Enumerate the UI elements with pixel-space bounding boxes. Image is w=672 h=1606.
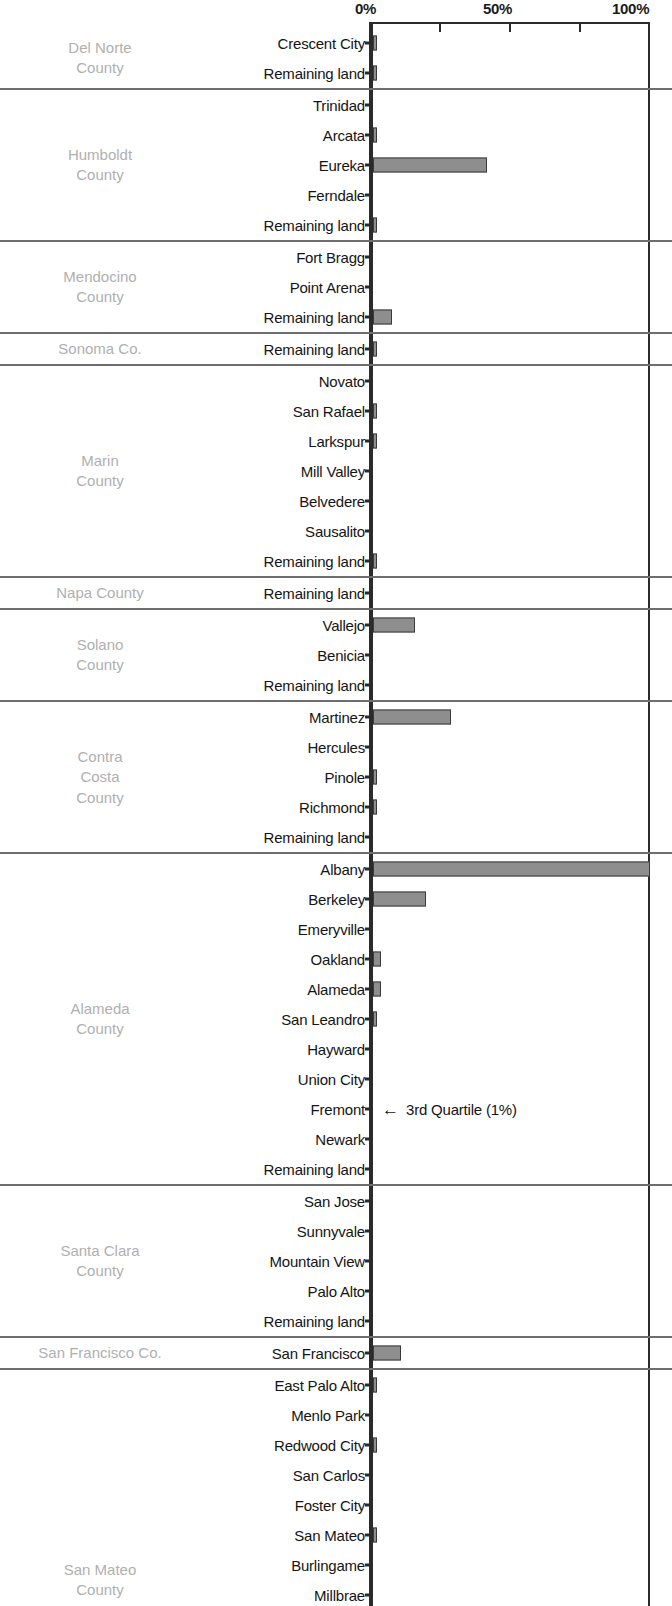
y-axis-tick xyxy=(365,684,370,687)
county-band: San Francisco Co.San Francisco xyxy=(0,1338,672,1370)
y-axis-tick xyxy=(365,256,370,259)
city-label: Mountain View xyxy=(269,1253,365,1270)
chart-row: Arcata xyxy=(0,120,672,150)
y-axis-tick xyxy=(365,316,370,319)
city-label: Richmond xyxy=(299,799,365,816)
county-band: Sonoma Co.Remaining land xyxy=(0,334,672,366)
y-axis-tick xyxy=(365,746,370,749)
city-label: Crescent City xyxy=(278,35,365,52)
city-label: Oakland xyxy=(311,951,365,968)
city-label: Remaining land xyxy=(264,309,365,326)
chart-row: Fort Bragg xyxy=(0,242,672,272)
bar-chart: 0% 50% 100% Del Norte CountyCrescent Cit… xyxy=(0,0,672,1606)
bar xyxy=(373,218,377,233)
bar xyxy=(373,1346,401,1361)
chart-row: Alameda xyxy=(0,974,672,1004)
bar xyxy=(373,1012,377,1027)
y-axis-tick xyxy=(365,1290,370,1293)
county-bands: Del Norte CountyCrescent CityRemaining l… xyxy=(0,28,672,1606)
city-label: San Rafael xyxy=(293,403,365,420)
chart-row: Hayward xyxy=(0,1034,672,1064)
bar xyxy=(373,66,377,81)
y-axis-tick xyxy=(365,440,370,443)
y-axis-tick xyxy=(365,1230,370,1233)
chart-row: Trinidad xyxy=(0,90,672,120)
axis-tick-label-0: 0% xyxy=(355,0,376,17)
chart-row: Point Arena xyxy=(0,272,672,302)
city-label: San Leandro xyxy=(281,1011,365,1028)
bar xyxy=(373,310,392,325)
chart-row: Remaining land xyxy=(0,1306,672,1336)
y-axis-tick xyxy=(365,348,370,351)
county-band: Mendocino CountyFort BraggPoint ArenaRem… xyxy=(0,242,672,334)
chart-row: Fremont←3rd Quartile (1%) xyxy=(0,1094,672,1124)
chart-row: Sausalito xyxy=(0,516,672,546)
city-label: Burlingame xyxy=(291,1557,365,1574)
chart-row: San Leandro xyxy=(0,1004,672,1034)
chart-row: Oakland xyxy=(0,944,672,974)
chart-row: Mill Valley xyxy=(0,456,672,486)
y-axis-tick xyxy=(365,104,370,107)
city-label: Benicia xyxy=(317,647,365,664)
y-axis-tick xyxy=(365,1108,370,1111)
chart-row: Sunnyvale xyxy=(0,1216,672,1246)
y-axis-tick xyxy=(365,1384,370,1387)
city-label: Trinidad xyxy=(313,97,365,114)
chart-row: Berkeley xyxy=(0,884,672,914)
chart-row: Larkspur xyxy=(0,426,672,456)
city-label: Mill Valley xyxy=(301,463,365,480)
city-label: East Palo Alto xyxy=(274,1377,365,1394)
county-band: Napa CountyRemaining land xyxy=(0,578,672,610)
county-band: Solano CountyVallejoBeniciaRemaining lan… xyxy=(0,610,672,702)
y-axis-tick xyxy=(365,868,370,871)
city-label: Vallejo xyxy=(322,617,365,634)
city-label: Emeryville xyxy=(298,921,365,938)
y-axis-tick xyxy=(365,1200,370,1203)
bar xyxy=(373,404,377,419)
y-axis-tick xyxy=(365,1504,370,1507)
bar xyxy=(373,800,377,815)
chart-row: Eureka xyxy=(0,150,672,180)
chart-row: Remaining land xyxy=(0,822,672,852)
chart-row: Pinole xyxy=(0,762,672,792)
y-axis-tick xyxy=(365,286,370,289)
chart-row: Emeryville xyxy=(0,914,672,944)
y-axis-tick xyxy=(365,806,370,809)
city-label: Pinole xyxy=(325,769,366,786)
bar xyxy=(373,1438,377,1453)
county-band: San Mateo CountyEast Palo AltoMenlo Park… xyxy=(0,1370,672,1606)
chart-row: Ferndale xyxy=(0,180,672,210)
chart-row: Belvedere xyxy=(0,486,672,516)
bar xyxy=(373,770,377,785)
chart-row: Remaining land xyxy=(0,58,672,88)
chart-row: Union City xyxy=(0,1064,672,1094)
y-axis-tick xyxy=(365,624,370,627)
chart-row: Benicia xyxy=(0,640,672,670)
y-axis-tick xyxy=(365,1594,370,1597)
y-axis-tick xyxy=(365,898,370,901)
city-label: Fremont xyxy=(311,1101,365,1118)
y-axis-tick xyxy=(365,1534,370,1537)
y-axis-tick xyxy=(365,1078,370,1081)
county-band: Del Norte CountyCrescent CityRemaining l… xyxy=(0,28,672,90)
bar xyxy=(373,1378,377,1393)
y-axis-tick xyxy=(365,1352,370,1355)
county-band: Santa Clara CountySan JoseSunnyvaleMount… xyxy=(0,1186,672,1338)
arrow-left-icon: ← xyxy=(382,1101,399,1118)
y-axis-tick xyxy=(365,134,370,137)
city-label: Remaining land xyxy=(264,1161,365,1178)
chart-row: San Mateo xyxy=(0,1520,672,1550)
county-band: Marin CountyNovatoSan RafaelLarkspurMill… xyxy=(0,366,672,578)
bar xyxy=(373,158,487,173)
bar xyxy=(373,982,381,997)
city-label: Arcata xyxy=(323,127,365,144)
y-axis-tick xyxy=(365,1168,370,1171)
axis-tick-label-100: 100% xyxy=(612,0,649,17)
city-label: Remaining land xyxy=(264,585,365,602)
bar xyxy=(373,434,377,449)
y-axis-tick xyxy=(365,410,370,413)
city-label: Alameda xyxy=(307,981,365,998)
city-label: San Carlos xyxy=(293,1467,365,1484)
y-axis-tick xyxy=(365,1048,370,1051)
city-label: Fort Bragg xyxy=(296,249,365,266)
